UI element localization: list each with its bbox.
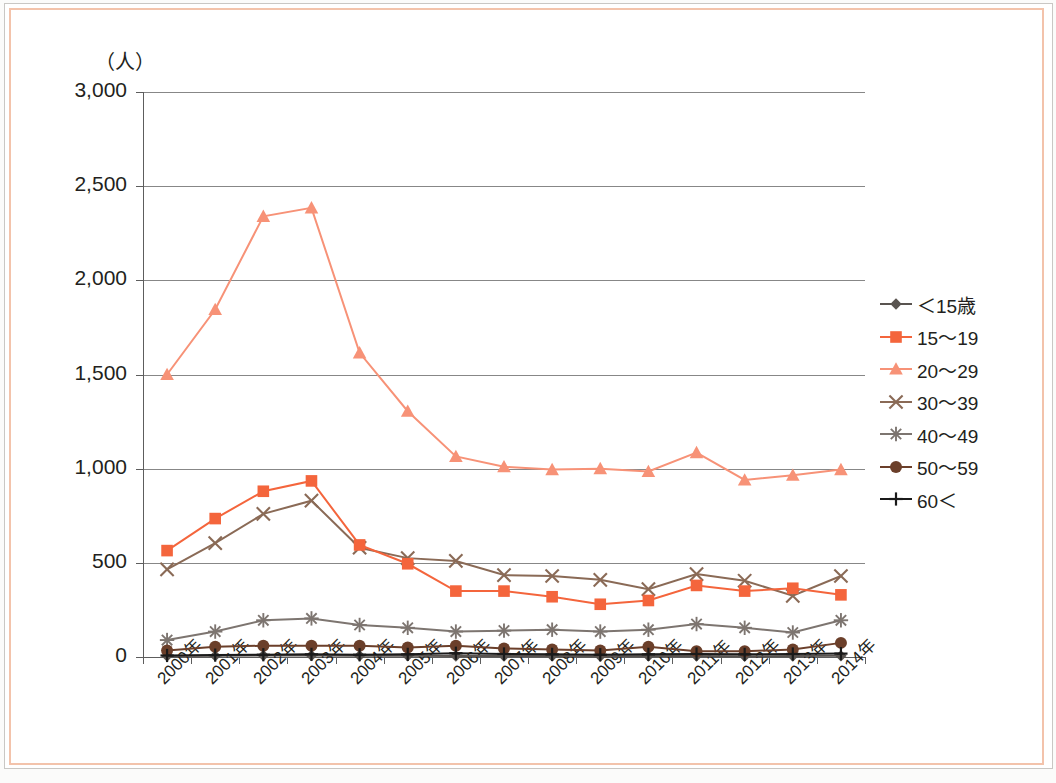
legend-marker-diamond-icon — [879, 294, 913, 314]
y-tickmark — [136, 280, 143, 281]
y-gridlines — [143, 92, 865, 657]
gridline — [143, 563, 865, 564]
legend-item-3[interactable]: 20〜29 — [879, 353, 1039, 386]
chart-plot-wrapper: （人） 05001,0001,5002,0002,5003,000 2000年2… — [11, 10, 1046, 767]
legend-marker-circle-icon — [879, 457, 913, 477]
y-tickmark — [136, 563, 143, 564]
legend-label: 15〜19 — [913, 323, 978, 350]
y-tickmark — [136, 92, 143, 93]
legend-marker-square-icon — [879, 327, 913, 347]
legend-item-7[interactable]: 60＜ — [879, 483, 1039, 516]
legend-item-6[interactable]: 50〜59 — [879, 451, 1039, 484]
y-tick-label: 500 — [41, 549, 127, 573]
gridline — [143, 375, 865, 376]
y-tick-label: 3,000 — [41, 78, 127, 102]
y-tick-label: 1,500 — [41, 361, 127, 385]
legend-item-4[interactable]: 30〜39 — [879, 386, 1039, 419]
y-tickmark — [136, 186, 143, 187]
y-tickmark — [136, 375, 143, 376]
figure-frame: （人） 05001,0001,5002,0002,5003,000 2000年2… — [9, 8, 1044, 765]
y-axis-unit-label: （人） — [95, 46, 155, 75]
y-axis-line — [143, 92, 144, 658]
legend-item-2[interactable]: 15〜19 — [879, 321, 1039, 354]
y-tick-label: 0 — [41, 643, 127, 667]
y-tick-label: 2,000 — [41, 266, 127, 290]
legend-label: ＜15歳 — [913, 291, 976, 318]
x-tickmark — [143, 657, 144, 664]
legend-marker-triangle-icon — [879, 359, 913, 379]
chart-legend: ＜15歳15〜1920〜2930〜3940〜4950〜5960＜ — [879, 288, 1039, 516]
legend-marker-plus-icon — [879, 489, 913, 509]
legend-label: 60＜ — [913, 486, 957, 513]
legend-item-5[interactable]: 40〜49 — [879, 418, 1039, 451]
y-tickmark — [136, 657, 143, 658]
legend-label: 50〜59 — [913, 453, 978, 480]
gridline — [143, 280, 865, 281]
gridline — [143, 469, 865, 470]
legend-marker-x-icon — [879, 392, 913, 412]
y-tick-label: 2,500 — [41, 172, 127, 196]
gridline — [143, 186, 865, 187]
y-tickmark — [136, 469, 143, 470]
legend-item-1[interactable]: ＜15歳 — [879, 288, 1039, 321]
legend-label: 20〜29 — [913, 356, 978, 383]
y-tick-label: 1,000 — [41, 455, 127, 479]
legend-marker-asterisk-icon — [879, 424, 913, 444]
legend-label: 30〜39 — [913, 388, 978, 415]
gridline — [143, 92, 865, 93]
figure-page: （人） 05001,0001,5002,0002,5003,000 2000年2… — [0, 0, 1056, 783]
legend-label: 40〜49 — [913, 421, 978, 448]
